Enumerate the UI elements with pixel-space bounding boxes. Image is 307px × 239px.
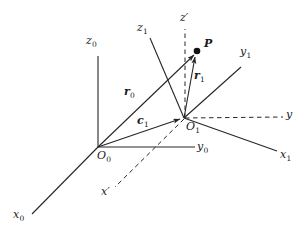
point-label-P: P <box>204 38 212 49</box>
axis-label-y0: y0 <box>197 141 208 152</box>
origin-label-O1: O1 <box>186 121 200 132</box>
axis-label-z0-sub: 0 <box>92 40 97 49</box>
axis-label-x1-sub: 1 <box>287 154 292 163</box>
axis-line-y-prime <box>185 117 283 118</box>
axis-label-y0-sub: 0 <box>204 146 209 155</box>
axis-label-z-prime: z′ <box>180 12 188 23</box>
vector-r0 <box>98 55 194 147</box>
vector-label-r0: r0 <box>124 86 135 97</box>
axis-label-y-prime: y <box>286 109 292 120</box>
axis-label-x0: x0 <box>13 209 24 220</box>
axis-line-x0 <box>32 147 98 214</box>
point-p-marker <box>194 48 201 55</box>
diagram-canvas <box>0 0 307 239</box>
axis-label-z0: z0 <box>86 35 97 46</box>
axis-label-y1: y1 <box>240 46 251 57</box>
vector-label-c1: c1 <box>137 115 148 126</box>
vector-label-r0-sub: 0 <box>130 91 135 100</box>
axis-label-z1-sub: 1 <box>143 27 148 36</box>
vector-label-c1-sub: 1 <box>144 120 149 129</box>
axis-label-z1: z1 <box>137 22 148 33</box>
origin-label-O0: O0 <box>97 150 111 161</box>
axis-label-y1-sub: 1 <box>247 51 252 60</box>
axis-line-z1 <box>150 38 184 118</box>
vector-r1 <box>184 57 195 118</box>
origin-label-O1-sub: 1 <box>195 126 200 135</box>
origin-label-O0-sub: 0 <box>106 155 111 164</box>
axis-line-y1 <box>184 67 241 118</box>
axis-label-x1: x1 <box>280 149 291 160</box>
vector-label-r1-sub: 1 <box>200 75 205 84</box>
vector-label-r1: r1 <box>194 70 205 81</box>
axis-label-x0-sub: 0 <box>20 214 25 223</box>
axis-label-x-prime: x′ <box>101 186 110 197</box>
vector-diagram-figure: z0 x0 y0 z1 y1 x1 z′ x′ y O0 O1 P r0 r1 … <box>0 0 307 239</box>
